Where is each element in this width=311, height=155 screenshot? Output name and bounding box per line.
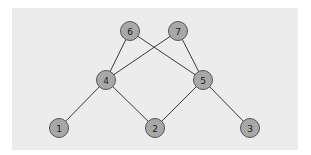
graph-canvas: 1234567: [0, 0, 311, 155]
edge-5-2: [155, 80, 203, 128]
node-7: 7: [169, 22, 188, 41]
nodes-group: 1234567: [50, 22, 260, 138]
edge-4-2: [106, 80, 155, 128]
node-3: 3: [241, 119, 260, 138]
node-1: 1: [50, 119, 69, 138]
node-2: 2: [146, 119, 165, 138]
node-4: 4: [97, 71, 116, 90]
edges-group: [59, 31, 250, 128]
node-label: 2: [152, 124, 158, 134]
node-5: 5: [194, 71, 213, 90]
node-label: 3: [247, 124, 253, 134]
node-label: 7: [175, 27, 181, 37]
node-label: 5: [200, 76, 206, 86]
node-label: 6: [127, 27, 133, 37]
node-label: 1: [56, 124, 62, 134]
node-6: 6: [121, 22, 140, 41]
node-label: 4: [103, 76, 109, 86]
edge-4-1: [59, 80, 106, 128]
edge-5-3: [203, 80, 250, 128]
